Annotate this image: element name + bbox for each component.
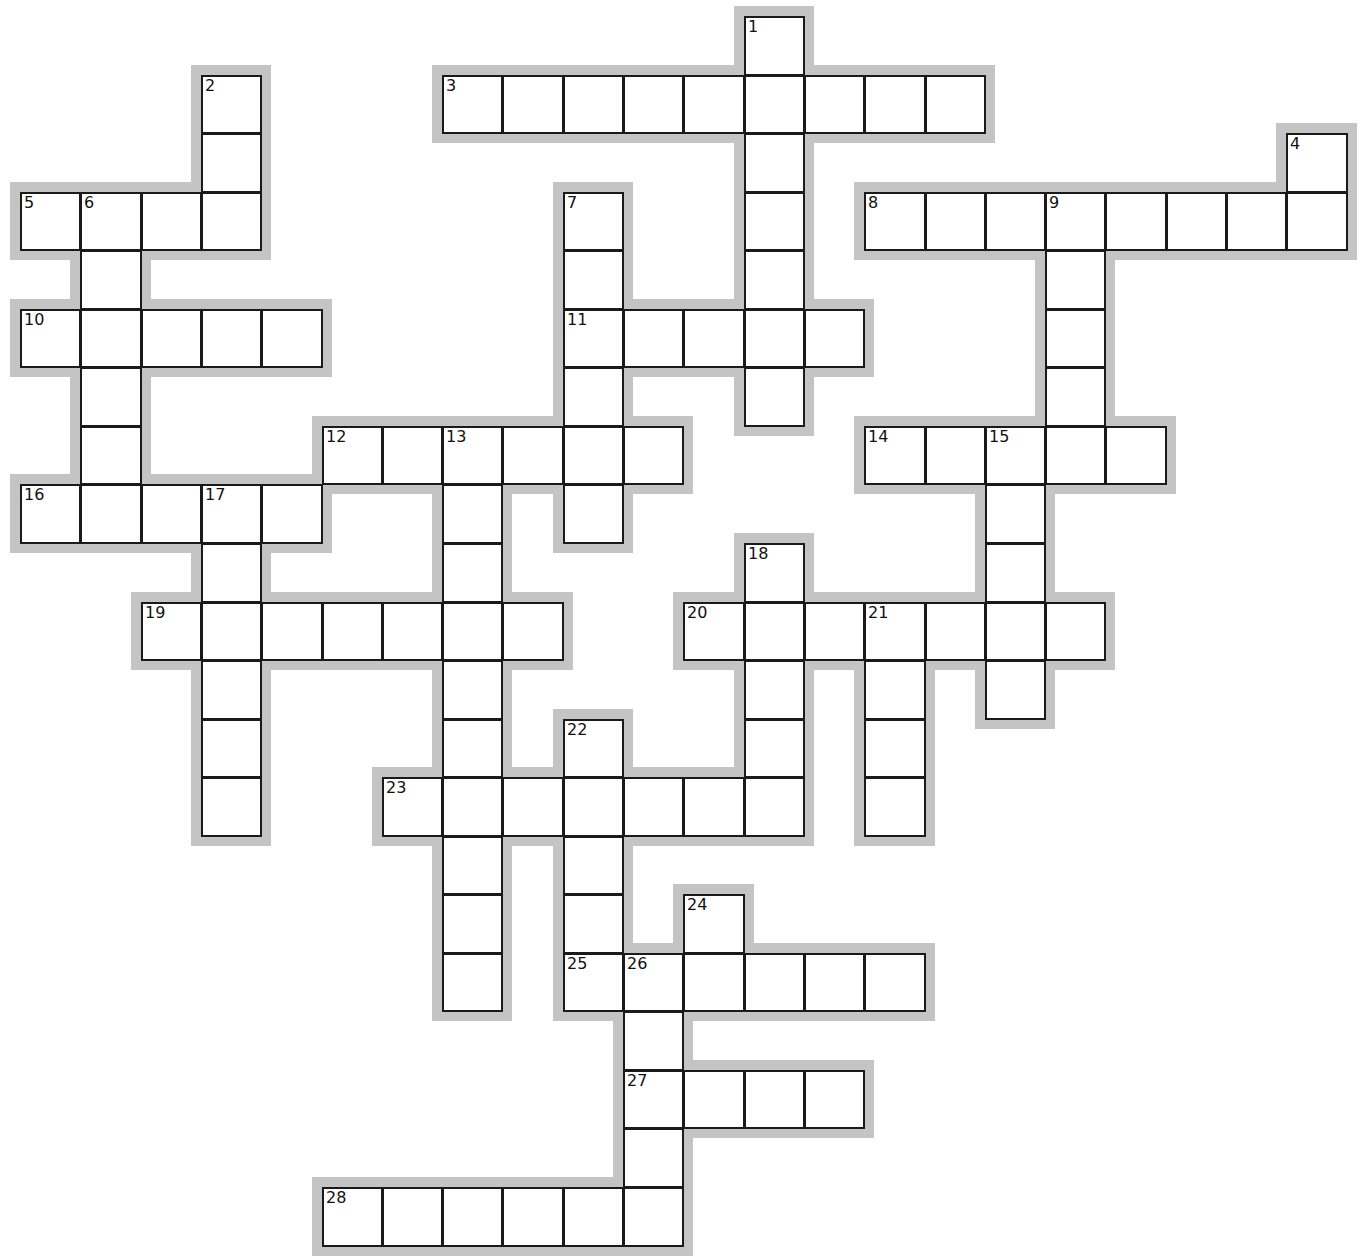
- crossword-cell[interactable]: 27: [623, 1070, 684, 1129]
- cell-letter-input[interactable]: [1168, 194, 1225, 249]
- cell-letter-input[interactable]: [927, 604, 984, 659]
- cell-letter-input[interactable]: [82, 486, 140, 542]
- cell-letter-input[interactable]: [625, 779, 682, 835]
- crossword-cell[interactable]: 11: [563, 309, 624, 368]
- cell-letter-input[interactable]: [866, 77, 924, 132]
- crossword-cell[interactable]: 18: [744, 543, 805, 603]
- cell-letter-input[interactable]: [1047, 604, 1104, 659]
- cell-letter-input[interactable]: [746, 311, 803, 366]
- crossword-cell[interactable]: [1166, 192, 1227, 251]
- crossword-cell[interactable]: [442, 953, 503, 1012]
- cell-letter-input[interactable]: [203, 77, 260, 132]
- cell-letter-input[interactable]: [746, 194, 803, 249]
- cell-letter-input[interactable]: [565, 779, 622, 835]
- cell-letter-input[interactable]: [384, 428, 441, 483]
- crossword-cell[interactable]: [744, 133, 805, 193]
- crossword-cell[interactable]: [864, 660, 926, 720]
- crossword-cell[interactable]: [683, 777, 745, 837]
- crossword-cell[interactable]: 13: [442, 426, 503, 485]
- cell-letter-input[interactable]: [625, 955, 682, 1010]
- crossword-cell[interactable]: [623, 426, 684, 485]
- cell-letter-input[interactable]: [866, 955, 924, 1010]
- crossword-cell[interactable]: [382, 1187, 443, 1247]
- cell-letter-input[interactable]: [746, 369, 803, 425]
- cell-letter-input[interactable]: [263, 311, 321, 366]
- crossword-cell[interactable]: 16: [20, 484, 81, 544]
- cell-letter-input[interactable]: [82, 194, 140, 249]
- cell-letter-input[interactable]: [565, 1189, 622, 1245]
- crossword-cell[interactable]: [623, 1128, 684, 1188]
- cell-letter-input[interactable]: [504, 77, 562, 132]
- crossword-cell[interactable]: [1045, 367, 1106, 427]
- cell-letter-input[interactable]: [685, 779, 743, 835]
- crossword-cell[interactable]: 8: [864, 192, 926, 251]
- crossword-cell[interactable]: [925, 192, 986, 251]
- cell-letter-input[interactable]: [987, 545, 1044, 601]
- cell-letter-input[interactable]: [1047, 194, 1104, 249]
- cell-letter-input[interactable]: [444, 1189, 501, 1245]
- crossword-cell[interactable]: 19: [141, 602, 202, 661]
- cell-letter-input[interactable]: [746, 18, 803, 74]
- cell-letter-input[interactable]: [806, 311, 863, 366]
- cell-letter-input[interactable]: [866, 428, 924, 483]
- cell-letter-input[interactable]: [504, 1189, 562, 1245]
- cell-letter-input[interactable]: [625, 1013, 682, 1069]
- crossword-cell[interactable]: 17: [201, 484, 262, 544]
- cell-letter-input[interactable]: [444, 545, 501, 601]
- crossword-cell[interactable]: [563, 836, 624, 895]
- crossword-cell[interactable]: [80, 426, 142, 485]
- cell-letter-input[interactable]: [565, 486, 622, 542]
- cell-letter-input[interactable]: [444, 896, 501, 952]
- crossword-cell[interactable]: [201, 660, 262, 720]
- cell-letter-input[interactable]: [82, 428, 140, 483]
- crossword-cell[interactable]: [382, 426, 443, 485]
- crossword-cell[interactable]: [1045, 309, 1106, 368]
- crossword-cell[interactable]: [201, 777, 262, 837]
- crossword-cell[interactable]: 23: [382, 777, 443, 837]
- crossword-cell[interactable]: [744, 719, 805, 778]
- cell-letter-input[interactable]: [444, 721, 501, 776]
- cell-letter-input[interactable]: [203, 194, 260, 249]
- crossword-cell[interactable]: [985, 484, 1046, 544]
- cell-letter-input[interactable]: [746, 662, 803, 718]
- cell-letter-input[interactable]: [203, 486, 260, 542]
- crossword-cell[interactable]: [623, 309, 684, 368]
- cell-letter-input[interactable]: [444, 779, 501, 835]
- cell-letter-input[interactable]: [866, 721, 924, 776]
- cell-letter-input[interactable]: [565, 194, 622, 249]
- crossword-cell[interactable]: [1045, 250, 1106, 310]
- crossword-cell[interactable]: [623, 1011, 684, 1071]
- crossword-cell[interactable]: [563, 484, 624, 544]
- crossword-cell[interactable]: 15: [985, 426, 1046, 485]
- cell-letter-input[interactable]: [384, 604, 441, 659]
- cell-letter-input[interactable]: [565, 838, 622, 893]
- cell-letter-input[interactable]: [324, 1189, 381, 1245]
- cell-letter-input[interactable]: [324, 604, 381, 659]
- cell-letter-input[interactable]: [1107, 194, 1165, 249]
- cell-letter-input[interactable]: [987, 194, 1044, 249]
- crossword-cell[interactable]: [804, 1070, 865, 1129]
- crossword-cell[interactable]: [985, 543, 1046, 603]
- crossword-cell[interactable]: [1105, 426, 1167, 485]
- cell-letter-input[interactable]: [866, 779, 924, 835]
- crossword-cell[interactable]: [322, 602, 383, 661]
- crossword-cell[interactable]: [442, 894, 503, 954]
- cell-letter-input[interactable]: [625, 311, 682, 366]
- crossword-cell[interactable]: [502, 777, 564, 837]
- cell-letter-input[interactable]: [1047, 428, 1104, 483]
- crossword-cell[interactable]: 20: [683, 602, 745, 661]
- crossword-cell[interactable]: [201, 719, 262, 778]
- crossword-cell[interactable]: [563, 250, 624, 310]
- crossword-cell[interactable]: [1045, 426, 1106, 485]
- crossword-cell[interactable]: [502, 426, 564, 485]
- crossword-cell[interactable]: [744, 1070, 805, 1129]
- cell-letter-input[interactable]: [685, 955, 743, 1010]
- cell-letter-input[interactable]: [987, 662, 1044, 718]
- crossword-cell[interactable]: [261, 602, 323, 661]
- cell-letter-input[interactable]: [746, 721, 803, 776]
- cell-letter-input[interactable]: [263, 486, 321, 542]
- crossword-cell[interactable]: [442, 719, 503, 778]
- crossword-cell[interactable]: 5: [20, 192, 81, 251]
- crossword-cell[interactable]: [563, 426, 624, 485]
- cell-letter-input[interactable]: [504, 779, 562, 835]
